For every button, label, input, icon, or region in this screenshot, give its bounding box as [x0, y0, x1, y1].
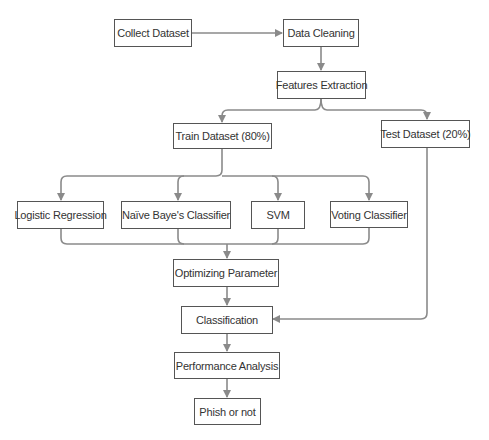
edge-merge-left: [61, 227, 369, 244]
node-logistic-regression: Logistic Regression: [17, 201, 104, 229]
node-svm: SVM: [251, 201, 305, 229]
edge-merge-svm: [272, 228, 278, 244]
edge-test-classification: [273, 147, 427, 319]
node-naive-bayes: Naïve Baye's Classifier: [121, 201, 231, 229]
node-collect-dataset: Collect Dataset: [114, 19, 192, 47]
node-phish-or-not: Phish or not: [194, 398, 261, 425]
node-features-extraction: Features Extraction: [277, 71, 366, 99]
node-train-dataset: Train Dataset (80%): [173, 123, 272, 149]
node-test-dataset: Test Dataset (20%): [381, 120, 470, 148]
node-classification: Classification: [181, 306, 273, 334]
node-performance-analysis: Performance Analysis: [174, 352, 280, 379]
edge-train-split-left: [61, 148, 222, 200]
node-optimizing-parameter: Optimizing Parameter: [173, 259, 279, 287]
edge-train-nb: [178, 176, 184, 200]
node-voting-classifier: Voting Classifier: [330, 201, 408, 228]
edge-features-test: [321, 99, 427, 119]
edge-features-split: [222, 99, 321, 122]
edge-train-split-right: [222, 176, 369, 200]
node-data-cleaning: Data Cleaning: [283, 19, 359, 47]
edge-merge-nb: [178, 228, 184, 244]
edge-train-svm: [272, 176, 278, 200]
